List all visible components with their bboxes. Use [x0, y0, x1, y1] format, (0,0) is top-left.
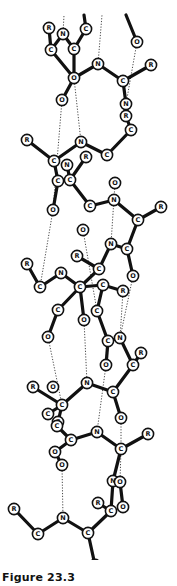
- atom-carbon: C: [97, 279, 108, 290]
- atom-label: C: [46, 410, 51, 418]
- atom-label: C: [52, 157, 57, 165]
- atom-label: R: [123, 112, 128, 120]
- alpha-helix-diagram: RNCCCONROCONRCRNCRCNCCONRCOCONCRRCONCCCR…: [0, 0, 177, 560]
- atom-label: N: [117, 334, 122, 342]
- atom-r-group: R: [80, 151, 91, 162]
- atom-carbon: C: [105, 505, 116, 516]
- atom-circle: [89, 559, 100, 560]
- atom-label: C: [121, 77, 126, 85]
- atom-r-group: R: [145, 59, 156, 70]
- atom-label: O: [71, 74, 77, 82]
- atom-carbon: C: [42, 408, 53, 419]
- atom-label: O: [52, 448, 58, 456]
- atom-oxygen: O: [100, 359, 111, 370]
- atom-label: C: [125, 245, 130, 253]
- atom-label: C: [56, 306, 61, 314]
- atom-label: R: [83, 153, 88, 161]
- atom-r-group: R: [71, 250, 82, 261]
- atom-nitrogen: N: [55, 267, 66, 278]
- atom-label: N: [108, 240, 113, 248]
- atom-carbon: C: [52, 175, 63, 186]
- atom-r-group: R: [117, 285, 128, 296]
- atom-carbon: C: [93, 263, 104, 274]
- atom-label: R: [24, 136, 29, 144]
- atom-label: N: [78, 138, 83, 146]
- atom-label: R: [120, 287, 125, 295]
- atom-carbon: C: [64, 174, 75, 185]
- atom-label: N: [64, 161, 69, 169]
- atom-carbon: C: [65, 434, 76, 445]
- atom-label: O: [117, 478, 123, 486]
- hydrogen-bond: [48, 337, 62, 405]
- atom-oxygen: O: [47, 204, 58, 215]
- atom-carbon: C: [74, 281, 85, 292]
- atom-carbon: C: [34, 281, 45, 292]
- atom-oxygen: O: [78, 314, 89, 325]
- atom-r-group: R: [27, 381, 38, 392]
- atom-label: C: [68, 176, 73, 184]
- atom-label: C: [69, 436, 74, 444]
- atom-label: O: [50, 206, 56, 214]
- atom-carbon: C: [32, 528, 43, 539]
- atom-label: N: [58, 269, 63, 277]
- atom-label: R: [24, 260, 29, 268]
- atom-carbon: C: [68, 43, 79, 54]
- atom-nitrogen: N: [57, 28, 68, 39]
- atom-oxygen: O: [56, 459, 67, 470]
- atom-label: C: [86, 529, 91, 537]
- atom-r-group: R: [21, 134, 32, 145]
- atom-carbon: C: [101, 149, 112, 160]
- atom-label: O: [45, 333, 51, 341]
- hydrogen-bond: [97, 365, 106, 432]
- atom-label: O: [130, 272, 136, 280]
- atom-label: O: [81, 316, 87, 324]
- atom-label: C: [109, 507, 114, 515]
- figure-caption: Figure 23.3: [2, 571, 75, 584]
- atom-carbon: C: [117, 75, 128, 86]
- atom-carbon: C: [91, 305, 102, 316]
- atom-label: N: [94, 428, 99, 436]
- atom-oxygen: O: [109, 177, 120, 188]
- atom-r-group: R: [43, 22, 54, 33]
- atom-oxygen: O: [42, 331, 53, 342]
- hydrogen-bond: [74, 78, 81, 142]
- atom-oxygen: O: [89, 559, 100, 560]
- atom-label: R: [95, 499, 100, 507]
- atom-oxygen: O: [114, 476, 125, 487]
- atom-oxygen: O: [47, 381, 58, 392]
- atom-oxygen: O: [127, 270, 138, 281]
- atom-label: N: [111, 196, 116, 204]
- atom-label: O: [103, 361, 109, 369]
- atom-label: O: [120, 503, 126, 511]
- atom-label: O: [112, 179, 118, 187]
- atom-oxygen: O: [115, 412, 126, 423]
- atom-label: N: [123, 100, 128, 108]
- atom-label: C: [136, 216, 141, 224]
- atom-r-group: R: [120, 110, 131, 121]
- atom-carbon: C: [51, 420, 62, 431]
- atom-r-group: R: [21, 258, 32, 269]
- atom-label: R: [30, 383, 35, 391]
- atom-label: R: [74, 252, 79, 260]
- hydrogen-bond: [111, 183, 115, 244]
- atom-carbon: C: [121, 243, 132, 254]
- atom-label: N: [60, 514, 65, 522]
- atom-r-group: R: [135, 347, 146, 358]
- atom-label: C: [129, 126, 134, 134]
- atom-label: C: [36, 530, 41, 538]
- atom-label: C: [131, 361, 136, 369]
- atom-label: O: [59, 96, 65, 104]
- atom-carbon: C: [52, 304, 63, 315]
- atom-label: C: [119, 445, 124, 453]
- atom-nitrogen: N: [108, 194, 119, 205]
- atom-carbon: C: [125, 124, 136, 135]
- atom-oxygen: O: [49, 446, 60, 457]
- atom-label: C: [111, 388, 116, 396]
- atom-label: R: [145, 430, 150, 438]
- atom-label: C: [97, 265, 102, 273]
- atom-nitrogen: N: [114, 332, 125, 343]
- atom-label: O: [80, 226, 86, 234]
- atom-label: O: [134, 38, 140, 46]
- atom-carbon: C: [48, 155, 59, 166]
- atom-r-group: R: [142, 428, 153, 439]
